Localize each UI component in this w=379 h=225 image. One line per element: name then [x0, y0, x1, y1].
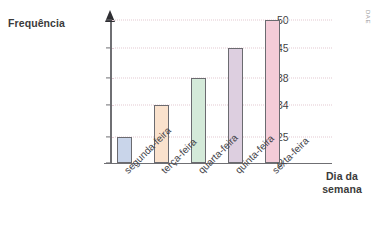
bar-chart-plot: Frequência Dia da semana 02534384550 seg…	[0, 0, 379, 225]
gridline	[112, 48, 332, 49]
gridline	[112, 105, 332, 106]
y-axis-title: Frequência	[8, 17, 65, 29]
y-axis-line	[110, 20, 112, 163]
y-tick-mark	[106, 162, 112, 163]
bar-quarta-feira	[191, 78, 206, 163]
x-axis-title: Dia da semana	[311, 170, 373, 196]
watermark-label: DAE	[365, 10, 371, 24]
gridline	[112, 20, 332, 21]
gridline	[112, 78, 332, 79]
chart-screenshot: Frequência Dia da semana 02534384550 seg…	[0, 0, 379, 225]
